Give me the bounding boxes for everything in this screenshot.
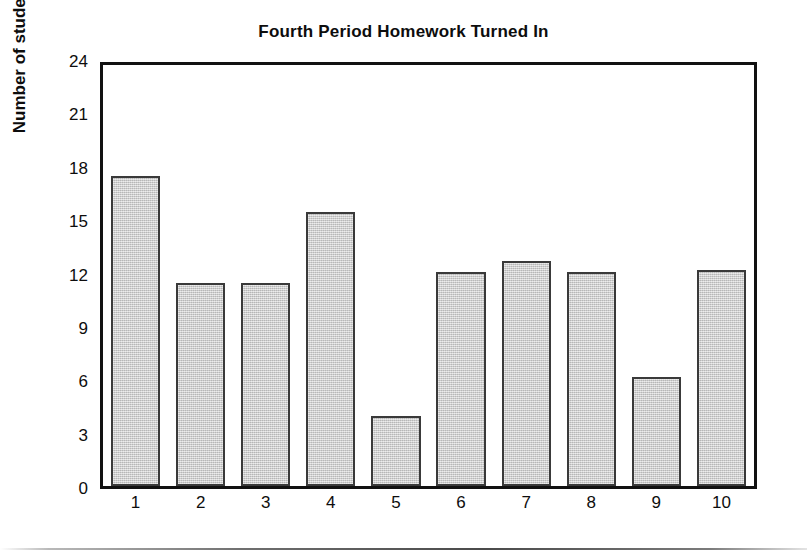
x-tick-label: 5 <box>391 493 400 513</box>
bar <box>241 283 290 486</box>
x-tick-label: 9 <box>652 493 661 513</box>
bar <box>176 283 225 486</box>
y-tick-label: 21 <box>44 105 88 125</box>
y-tick-label: 15 <box>44 212 88 232</box>
y-tick-label: 24 <box>44 52 88 72</box>
y-tick-label: 18 <box>44 159 88 179</box>
y-axis-title: Number of students <box>0 0 40 188</box>
x-tick-label: 7 <box>521 493 530 513</box>
bar <box>632 377 681 486</box>
bar <box>371 416 420 486</box>
x-tick-label: 10 <box>712 493 731 513</box>
x-tick-label: 3 <box>261 493 270 513</box>
y-tick-label: 12 <box>44 266 88 286</box>
y-tick-label: 3 <box>44 426 88 446</box>
bar <box>697 270 746 486</box>
y-tick-label: 6 <box>44 372 88 392</box>
x-tick-label: 8 <box>587 493 596 513</box>
x-tick-label: 1 <box>131 493 140 513</box>
page-rule-divider <box>0 548 807 550</box>
y-tick-label: 0 <box>44 479 88 499</box>
y-tick-label: 9 <box>44 319 88 339</box>
x-tick-label: 2 <box>196 493 205 513</box>
x-axis-tick-labels: 12345678910 <box>103 493 754 523</box>
x-tick-label: 6 <box>456 493 465 513</box>
chart-title: Fourth Period Homework Turned In <box>0 22 807 42</box>
chart-figure: Fourth Period Homework Turned In Number … <box>0 0 807 557</box>
bar <box>306 212 355 486</box>
bar <box>436 272 485 486</box>
bar <box>502 261 551 486</box>
y-axis-tick-labels: 03691215182124 <box>36 62 88 489</box>
bar <box>567 272 616 486</box>
bar-series <box>103 65 754 486</box>
x-tick-label: 4 <box>326 493 335 513</box>
bar <box>111 176 160 486</box>
